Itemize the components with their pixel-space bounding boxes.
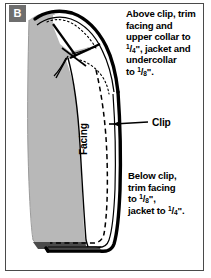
callout-top-line-4: 1/4", jacket and [126, 43, 190, 54]
callout-bottom-line-2: trim facing [128, 182, 175, 193]
inch-mark: " [178, 205, 182, 216]
fraction-numerator: 1 [137, 66, 140, 73]
fraction-numerator: 1 [139, 193, 142, 200]
fraction-numerator: 1 [126, 43, 129, 50]
callout-bottom-line-4: jacket to 1/4". [128, 205, 185, 216]
inch-mark: " [149, 193, 153, 204]
callout-above-clip: Above clip, trim facing and upper collar… [126, 8, 204, 77]
callout-top-line-2: facing and [126, 20, 172, 31]
inch-mark: " [135, 43, 139, 54]
callout-bottom-line-1: Below clip, [128, 170, 176, 181]
callout-top-line-6: to 1/8". [126, 66, 154, 77]
callout-top-line-3: upper collar to [126, 31, 190, 42]
callout-below-clip: Below clip, trim facing to 1/8", jacket … [128, 170, 204, 216]
inch-mark: " [147, 66, 151, 77]
facing-label: Facing [78, 123, 90, 155]
callout-top-line-5: undercollar [126, 54, 177, 65]
panel-label-badge: B [9, 5, 26, 22]
hem-corner-heavy [46, 248, 48, 251]
fraction-numerator: 1 [168, 205, 171, 212]
callout-top-line-1: Above clip, trim [126, 8, 196, 19]
sewing-instruction-figure: B Above clip, trim facing and upper coll… [0, 0, 211, 278]
callout-bottom-line-3: to 1/8", [128, 193, 156, 204]
clip-label: Clip [152, 117, 171, 129]
